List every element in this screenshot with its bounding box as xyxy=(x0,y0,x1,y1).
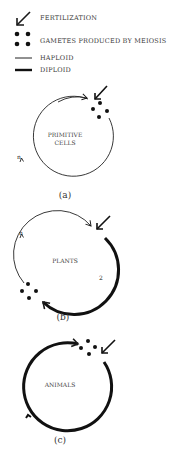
panel-b-caption: (b) xyxy=(48,312,78,322)
panel-b-label: PLANTS xyxy=(40,257,90,265)
legend-label-diploid: DIPLOID xyxy=(40,66,71,74)
panel-a-ploidy-n: n xyxy=(17,153,21,160)
panel-a-label: PRIMITIVE CELLS xyxy=(40,131,90,147)
panel-b-ploidy-2: 2 xyxy=(99,274,103,281)
legend-label-haploid: HAPLOID xyxy=(40,54,74,62)
panel-a-caption: (a) xyxy=(50,190,80,200)
panel-a-label-line1: PRIMITIVE xyxy=(40,131,90,139)
fertilization-arrow-icon xyxy=(102,340,115,353)
legend-label-gametes: GAMETES PRODUCED BY MEIOSIS xyxy=(40,37,166,45)
life-cycle-diagram xyxy=(0,0,173,465)
panel-c-caption: (c) xyxy=(45,435,75,445)
panel-c-label: ANIMALS xyxy=(35,381,85,389)
gametes-dots-icon xyxy=(20,282,38,300)
fertilization-arrow-icon xyxy=(97,216,110,229)
legend-fertilization-arrow-icon xyxy=(17,12,30,25)
panel-b-ploidy-n: n xyxy=(19,229,23,236)
fertilization-arrow-icon xyxy=(95,86,107,99)
legend-gametes-dots-icon xyxy=(15,32,31,47)
gametes-dots-icon xyxy=(79,339,97,356)
panel-a-label-line2: CELLS xyxy=(40,139,90,147)
gametes-dots-icon xyxy=(91,101,109,119)
legend-label-fertilization: FERTILIZATION xyxy=(40,14,97,22)
